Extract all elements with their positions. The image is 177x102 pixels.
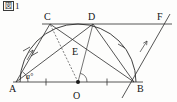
segment-DB xyxy=(93,24,134,82)
vertex-label-A: A xyxy=(9,83,17,94)
segment-OD xyxy=(78,24,93,82)
line-through-B-to-F xyxy=(122,14,170,98)
vertex-label-D: D xyxy=(88,11,95,22)
angle-arc-at-O xyxy=(80,73,87,82)
segment-CB xyxy=(50,24,134,82)
vertex-label-C: C xyxy=(44,11,51,22)
angle-label-a: a° xyxy=(26,72,34,81)
figure-container: 図1 xyxy=(0,0,177,102)
vertex-label-B: B xyxy=(137,83,144,94)
vertex-label-O: O xyxy=(73,90,80,101)
vertex-label-F: F xyxy=(157,11,163,22)
center-point-O-dot xyxy=(76,80,80,84)
arrow-BF-parallel-mark xyxy=(140,41,147,52)
geometry-diagram: A O B C D E F a° xyxy=(0,0,177,102)
vertex-label-E: E xyxy=(72,46,78,57)
